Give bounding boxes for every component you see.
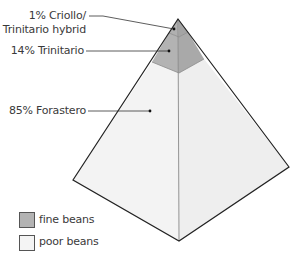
legend-label-fine: fine beans [39,213,94,226]
pyramid-diagram [0,0,304,266]
forastero-right-face [179,59,289,241]
legend-label-poor: poor beans [39,235,99,248]
leader-hybrid [89,16,174,29]
marker-forastero [149,110,152,113]
marker-trinitario [168,50,171,53]
label-hybrid-line1: 1% Criollo/ [0,9,86,23]
label-hybrid-line2: Trinitario hybrid [0,23,86,37]
label-forastero: 85% Forastero [0,104,86,117]
marker-hybrid [173,28,176,31]
label-hybrid: 1% Criollo/ Trinitario hybrid [0,9,86,37]
legend-swatch-poor [19,235,35,251]
label-trinitario: 14% Trinitario [0,44,84,57]
legend-swatch-fine [19,212,35,228]
